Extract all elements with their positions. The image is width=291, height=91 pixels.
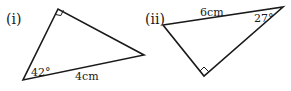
triangle-ii-angle-label: 27°	[254, 12, 274, 25]
triangle-ii: (ii) 6cm 27°	[145, 6, 283, 76]
triangle-i: (i) 42° 4cm	[6, 9, 144, 83]
triangle-i-label: (i)	[6, 11, 21, 27]
triangle-ii-side-label: 6cm	[200, 6, 224, 19]
right-angle-marker-ii	[200, 67, 209, 72]
triangles-figure: (i) 42° 4cm (ii) 6cm 27°	[0, 0, 291, 91]
triangle-i-angle-label: 42°	[31, 66, 51, 79]
triangle-i-side-label: 4cm	[75, 70, 99, 83]
